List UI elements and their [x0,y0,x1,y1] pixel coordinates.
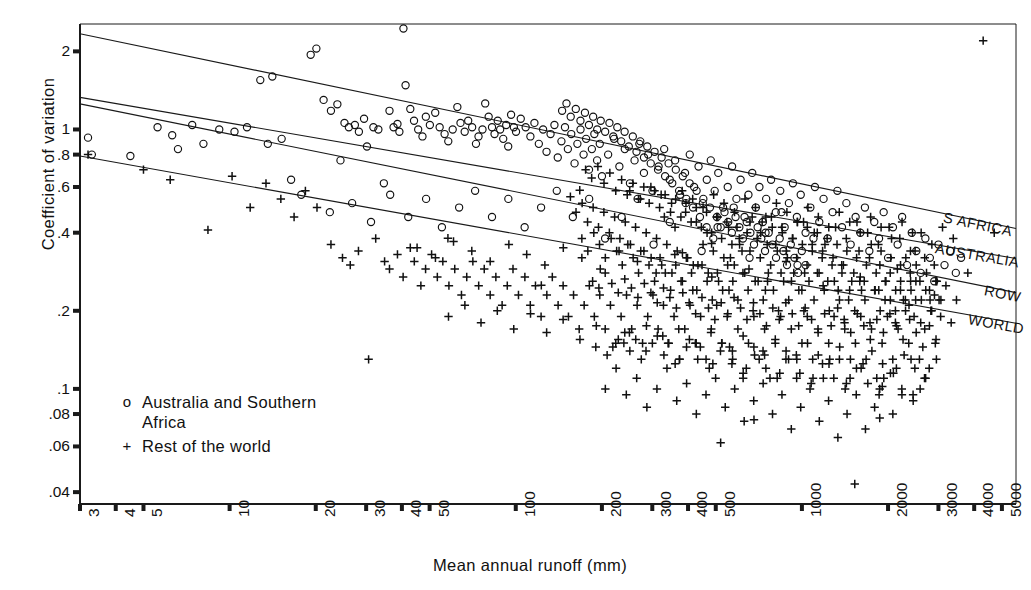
figure-scatter-plot: Coefficient of variation Mean annual run… [0,0,1031,590]
x-tick-label: 1000 [808,483,824,517]
legend: o Australia and Southern Africa + Rest o… [112,392,412,460]
x-tick-label: 4000 [980,483,996,517]
legend-label-line2: Africa [142,412,316,432]
y-tick-label: .1 [20,381,70,397]
y-tick-label: .4 [20,225,70,241]
x-tick-label: 5 [149,508,165,517]
legend-marker-plus-icon: + [112,436,142,456]
y-tick-label: .2 [20,303,70,319]
x-axis-label: Mean annual runoff (mm) [380,556,680,575]
legend-label-line1: Rest of the world [142,437,271,455]
x-tick-label: 3000 [944,483,960,517]
y-tick-label: .8 [20,147,70,163]
x-tick-label: 30 [372,500,388,517]
x-tick-label: 100 [522,491,538,517]
y-tick-label: 2 [20,43,70,59]
y-tick-label: 1 [20,121,70,137]
legend-item-australia-southern-africa: o Australia and Southern Africa [112,392,412,432]
y-tick-label: .08 [20,406,70,422]
x-tick-label: 300 [658,491,674,517]
legend-label-rest-of-world: Rest of the world [142,436,271,456]
y-axis-label-wrapper: Coefficient of variation [36,14,60,314]
plot-canvas [0,0,1031,590]
legend-label-line1: Australia and Southern [142,393,316,411]
x-tick-label: 20 [322,500,338,517]
y-tick-label: .6 [20,179,70,195]
legend-item-rest-of-world: + Rest of the world [112,436,412,456]
regression-lines [80,34,1016,324]
x-tick-label: 5000 [1008,483,1024,517]
legend-marker-circle-icon: o [112,392,142,412]
x-tick-label: 4 [122,508,138,517]
x-tick-label: 500 [722,491,738,517]
x-tick-label: 3 [86,508,102,517]
x-tick-label: 50 [436,500,452,517]
x-tick-label: 10 [236,500,252,517]
x-tick-label: 40 [408,500,424,517]
y-tick-label: .04 [20,484,70,500]
x-tick-label: 400 [694,491,710,517]
y-tick-label: .06 [20,438,70,454]
x-tick-label: 200 [608,491,624,517]
x-tick-label: 2000 [894,483,910,517]
legend-label-australia-southern-africa: Australia and Southern Africa [142,392,316,432]
